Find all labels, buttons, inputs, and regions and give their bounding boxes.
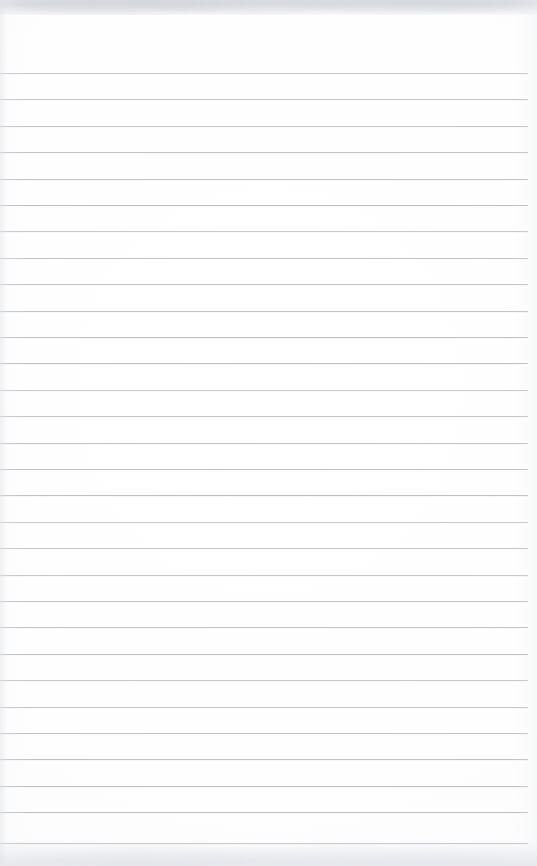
page-writing-area <box>0 0 537 866</box>
scanned-page <box>0 0 537 866</box>
